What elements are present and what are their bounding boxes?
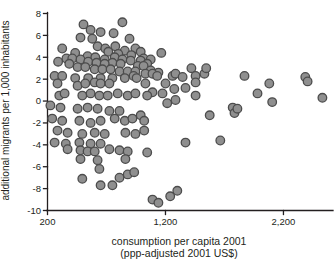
y-tick-label: 6 [36, 30, 41, 41]
data-point [253, 89, 262, 98]
data-point [181, 138, 190, 147]
data-point [96, 139, 105, 148]
data-point [171, 96, 180, 105]
data-points [46, 18, 327, 207]
data-point [96, 79, 105, 88]
data-point [110, 114, 119, 123]
data-point [73, 104, 82, 113]
data-point [121, 74, 130, 83]
data-point [170, 85, 179, 94]
data-point [86, 89, 95, 98]
data-point [216, 136, 225, 145]
data-point [128, 114, 137, 123]
data-point [191, 91, 200, 100]
data-point [130, 168, 139, 177]
data-point [140, 117, 149, 126]
y-tick-label: -4 [33, 139, 41, 150]
data-point [161, 79, 170, 88]
data-point [166, 192, 175, 201]
data-point [205, 111, 214, 120]
data-point [90, 147, 99, 156]
data-point [58, 117, 67, 126]
data-point [96, 117, 105, 126]
data-point [95, 91, 104, 100]
data-point [157, 49, 166, 58]
data-point [154, 199, 163, 208]
data-point [50, 138, 59, 147]
data-point [86, 119, 95, 128]
data-point [100, 130, 109, 139]
x-tick-label: 200 [40, 216, 56, 227]
data-point [153, 72, 162, 81]
data-point [121, 155, 130, 164]
scatter-plot: 86420-2-4-6-8-102001,2002,200 additional… [0, 0, 334, 270]
data-point [96, 28, 105, 37]
y-axis-title: additional migrants per 1,000 inhabitant… [0, 20, 11, 200]
data-point [318, 94, 327, 103]
x-tick-label: 2,200 [272, 216, 296, 227]
data-point [131, 89, 140, 98]
data-point [106, 65, 115, 74]
y-tick-label: -6 [33, 161, 41, 172]
data-point [63, 129, 72, 138]
y-tick-label: -8 [33, 183, 41, 194]
data-point [125, 34, 134, 43]
data-point [143, 91, 152, 100]
data-point [93, 156, 102, 165]
data-point [75, 117, 84, 126]
data-point [95, 165, 104, 174]
scatter-figure: 86420-2-4-6-8-102001,2002,200 additional… [0, 0, 334, 270]
y-tick-label: 8 [36, 8, 41, 19]
data-point [65, 60, 74, 69]
data-point [163, 99, 172, 108]
data-point [178, 73, 187, 82]
data-point [54, 57, 63, 66]
data-point [76, 155, 85, 164]
data-point [265, 79, 274, 88]
data-point [63, 145, 72, 154]
data-point [60, 89, 69, 98]
data-point [56, 103, 65, 112]
data-point [48, 114, 57, 123]
data-point [202, 64, 211, 73]
data-point [115, 146, 124, 155]
data-point [115, 173, 124, 182]
data-point [46, 101, 55, 110]
data-point [113, 89, 122, 98]
data-point [86, 26, 95, 35]
data-point [131, 130, 140, 139]
data-point [240, 72, 249, 81]
data-point [140, 126, 149, 135]
data-point [93, 104, 102, 113]
data-point [109, 29, 118, 38]
data-point [96, 181, 105, 190]
data-point [108, 181, 117, 190]
data-point [88, 34, 97, 43]
data-point [103, 91, 112, 100]
data-point [53, 79, 62, 88]
data-point [76, 33, 85, 42]
data-point [191, 78, 200, 87]
data-point [81, 79, 90, 88]
y-tick-label: 4 [36, 52, 41, 63]
data-point [78, 175, 87, 184]
data-point [268, 98, 277, 107]
data-point [115, 107, 124, 116]
data-point [98, 65, 107, 74]
data-point [181, 84, 190, 93]
data-point [105, 107, 114, 116]
data-point [143, 148, 152, 157]
data-point [233, 104, 242, 113]
data-point [118, 18, 127, 27]
y-tick-label: 0 [36, 95, 41, 106]
data-point [132, 74, 141, 83]
data-point [105, 79, 114, 88]
data-point [141, 79, 150, 88]
data-point [78, 91, 87, 100]
data-point [121, 129, 130, 138]
y-tick-label: -10 [27, 205, 41, 216]
x-axis-title-line1: consumption per capita 2001 [112, 235, 247, 247]
y-tick-label: 2 [36, 74, 41, 85]
data-point [303, 77, 312, 86]
data-point [53, 126, 62, 135]
